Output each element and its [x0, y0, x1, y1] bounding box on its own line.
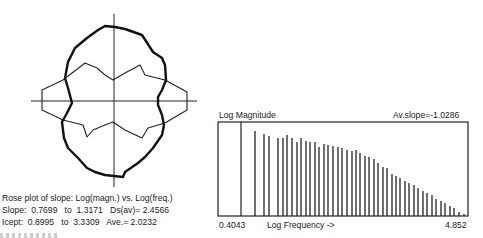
rose-icept-stats: Icept: 0.8995 to 3.3309 Ave.= 2.0232 [2, 217, 157, 228]
spectrum-frame [218, 122, 468, 216]
cut-off-text [0, 233, 60, 238]
x-min-label: 0.4043 [219, 220, 245, 230]
spectrum-bars [255, 131, 464, 216]
x-max-label: 4.852 [445, 220, 467, 230]
rose-caption: Rose plot of slope: Log(magn.) vs. Log(f… [2, 193, 173, 204]
y-axis-label: Log Magnitude [219, 110, 276, 120]
av-slope-annotation: Av.slope=-1.0286 [393, 110, 459, 120]
x-axis-label: Log Frequency -> [267, 220, 335, 230]
rose-slope-stats: Slope: 0.7699 to 1.3171 Ds(av)= 2.4566 [2, 205, 169, 216]
rose-plot [0, 0, 220, 195]
